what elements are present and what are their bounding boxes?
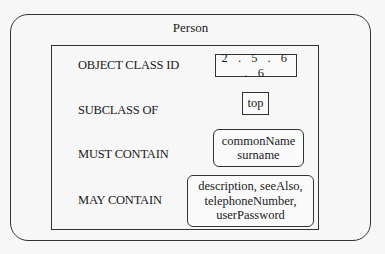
may-contain-line: userPassword <box>216 208 285 223</box>
may-contain-label: MAY CONTAIN <box>78 193 162 208</box>
subclass-of-value: top <box>242 92 269 115</box>
object-class-id-value: 2 . 5 . 6 . 6 <box>215 54 297 77</box>
object-class-title: Person <box>10 20 371 36</box>
must-contain-value: commonName surname <box>213 129 304 167</box>
must-contain-label: MUST CONTAIN <box>78 147 168 162</box>
object-class-id-label: OBJECT CLASS ID <box>78 58 179 73</box>
may-contain-value: description, seeAlso, telephoneNumber, u… <box>187 175 314 227</box>
must-contain-line: commonName <box>222 134 296 149</box>
must-contain-line: surname <box>237 148 279 163</box>
may-contain-line: description, seeAlso, <box>198 179 303 194</box>
may-contain-line: telephoneNumber, <box>204 194 296 209</box>
subclass-of-label: SUBCLASS OF <box>78 103 158 118</box>
